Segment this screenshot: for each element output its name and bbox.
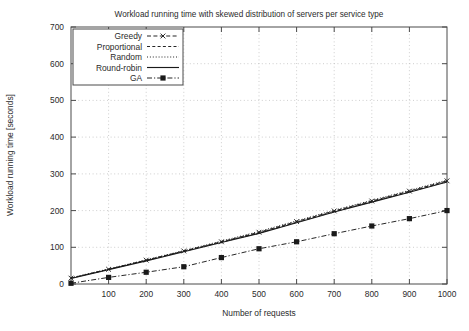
y-axis-tick-labels: 700 600 500 400 300 200 100 0 <box>50 22 64 289</box>
legend-label-proportional: Proportional <box>97 42 142 52</box>
x-tick-label: 400 <box>214 289 228 299</box>
x-tick-label: 100 <box>102 289 116 299</box>
y-tick-label: 600 <box>50 59 64 69</box>
x-tick-label: 1000 <box>438 289 457 299</box>
x-tick-label: 900 <box>402 289 416 299</box>
x-tick-label: 600 <box>290 289 304 299</box>
data-point-marker <box>219 255 224 260</box>
data-point-marker <box>181 264 186 269</box>
y-tick-label: 500 <box>50 95 64 105</box>
legend-label-ga: GA <box>130 73 143 83</box>
chart-title: Workload running time with skewed distri… <box>115 10 384 19</box>
data-point-marker <box>294 239 299 244</box>
legend-label-greedy: Greedy <box>115 31 143 41</box>
workload-running-time-line-chart: Workload running time with skewed distri… <box>0 0 469 331</box>
y-axis-title: Workload running time [seconds] <box>5 94 15 216</box>
x-tick-label: 500 <box>252 289 266 299</box>
x-tick-label: 200 <box>139 289 153 299</box>
y-tick-label: 700 <box>50 22 64 32</box>
data-point-marker <box>68 281 73 286</box>
y-tick-label: 400 <box>50 132 64 142</box>
y-tick-label: 100 <box>50 242 64 252</box>
x-axis-title: Number of requests <box>222 308 296 318</box>
chart-container: Workload running time with skewed distri… <box>0 0 469 331</box>
y-tick-label: 0 <box>59 279 64 289</box>
x-tick-label: 300 <box>177 289 191 299</box>
legend-key-marker <box>160 75 165 80</box>
x-tick-label: 800 <box>365 289 379 299</box>
horizontal-gridlines <box>71 64 447 248</box>
data-point-marker <box>369 223 374 228</box>
series-ga <box>68 208 449 286</box>
x-axis-tick-labels: 100 200 300 400 500 600 700 800 900 1000 <box>102 289 457 299</box>
data-point-marker <box>106 275 111 280</box>
legend-label-random: Random <box>110 52 142 62</box>
data-point-marker <box>444 208 449 213</box>
data-point-marker <box>256 246 261 251</box>
data-point-marker <box>144 270 149 275</box>
chart-legend: Greedy Proportional Random Round-robin G… <box>73 29 183 85</box>
legend-label-round-robin: Round-robin <box>96 63 142 73</box>
y-tick-label: 300 <box>50 169 64 179</box>
data-point-marker <box>407 216 412 221</box>
data-series-layer <box>68 178 449 285</box>
y-tick-label: 200 <box>50 206 64 216</box>
x-tick-label: 700 <box>327 289 341 299</box>
data-point-marker <box>332 231 337 236</box>
